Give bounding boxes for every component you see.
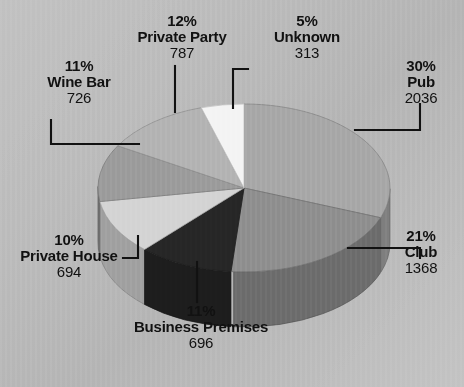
slice-label-unknown-name: Unknown (247, 29, 367, 45)
slice-label-private-party-percent: 12% (112, 13, 252, 29)
slice-label-wine-bar-value: 726 (22, 90, 136, 106)
slice-label-pub-value: 2036 (382, 90, 460, 106)
slice-label-private-party-name: Private Party (112, 29, 252, 45)
slice-label-club-value: 1368 (382, 260, 460, 276)
slice-label-business-premises-value: 696 (108, 335, 294, 351)
slice-label-private-house-name: Private House (2, 248, 136, 264)
leader-line-unknown (233, 69, 248, 108)
slice-label-private-house: 10% Private House 694 (2, 232, 136, 281)
slice-label-private-house-percent: 10% (2, 232, 136, 248)
slice-label-club-percent: 21% (382, 228, 460, 244)
slice-label-business-premises-name: Business Premises (108, 319, 294, 335)
slice-label-unknown-percent: 5% (247, 13, 367, 29)
pie-chart-figure: 5% Unknown 313 30% Pub 2036 21% Club 136… (0, 0, 464, 387)
slice-label-unknown: 5% Unknown 313 (247, 13, 367, 62)
slice-label-club: 21% Club 1368 (382, 228, 460, 277)
pie-slices-group (98, 104, 390, 327)
slice-label-private-party: 12% Private Party 787 (112, 13, 252, 62)
slice-label-pub-percent: 30% (382, 58, 460, 74)
slice-label-unknown-value: 313 (247, 45, 367, 61)
slice-label-private-party-value: 787 (112, 45, 252, 61)
slice-label-pub-name: Pub (382, 74, 460, 90)
slice-label-pub: 30% Pub 2036 (382, 58, 460, 107)
slice-label-wine-bar-name: Wine Bar (22, 74, 136, 90)
leader-line-pub (355, 104, 420, 130)
slice-label-private-house-value: 694 (2, 264, 136, 280)
slice-label-business-premises: 11% Business Premises 696 (108, 303, 294, 352)
slice-label-business-premises-percent: 11% (108, 303, 294, 319)
slice-label-club-name: Club (382, 244, 460, 260)
slice-label-wine-bar: 11% Wine Bar 726 (22, 58, 136, 107)
chart-stage: 5% Unknown 313 30% Pub 2036 21% Club 136… (0, 0, 464, 387)
